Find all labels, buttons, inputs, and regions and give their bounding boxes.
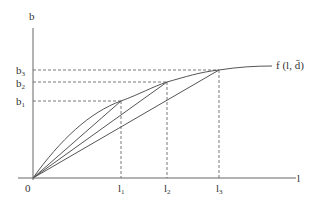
b1-label: b1 <box>16 95 26 109</box>
origin-label: 0 <box>25 182 31 194</box>
l1-label: l1 <box>118 182 125 196</box>
production-function-diagram: b l 0 b3 b2 b1 l1 l2 l3 f (l, d̄) <box>0 0 315 204</box>
diagram-canvas: b l 0 b3 b2 b1 l1 l2 l3 f (l, d̄) <box>0 0 315 204</box>
curve-label: f (l, d̄) <box>276 59 304 72</box>
y-axis-label: b <box>29 10 35 22</box>
l3-label: l3 <box>216 182 223 196</box>
ray-to-l1 <box>33 101 121 178</box>
ray-to-l3 <box>33 70 219 178</box>
b3-label: b3 <box>16 64 26 78</box>
ray-to-l2 <box>33 82 167 178</box>
l2-label: l2 <box>164 182 171 196</box>
x-axis-label: l <box>297 172 300 184</box>
production-curve <box>33 66 272 178</box>
b2-label: b2 <box>16 77 26 91</box>
